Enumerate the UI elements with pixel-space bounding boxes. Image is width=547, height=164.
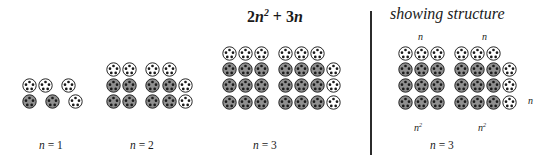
formula-label: 2n2 + 3n: [247, 8, 303, 25]
token-empty: [414, 46, 429, 61]
token-filled: [414, 62, 429, 77]
token-filled: [430, 95, 445, 110]
token-filled: [454, 78, 469, 93]
formula-coefficient-1: 2: [247, 8, 255, 25]
token-filled: [106, 94, 121, 109]
token-filled: [294, 62, 309, 77]
token-empty: [61, 78, 76, 93]
token-empty: [502, 62, 517, 77]
token-filled: [398, 78, 413, 93]
token-empty: [502, 95, 517, 110]
token-filled: [162, 78, 177, 93]
token-filled: [254, 78, 269, 93]
token-empty: [38, 78, 53, 93]
caption-n2: n = 2: [130, 140, 154, 152]
token-empty: [68, 94, 83, 109]
token-empty: [502, 78, 517, 93]
token-filled: [294, 95, 309, 110]
token-filled: [430, 78, 445, 93]
token-filled: [45, 94, 60, 109]
formula-variable: n: [294, 8, 303, 25]
quadratic-dot-figure: 2n2 + 3n showing structure: [0, 0, 547, 164]
token-filled: [122, 94, 137, 109]
token-filled: [470, 95, 485, 110]
token-filled: [122, 78, 137, 93]
token-filled: [145, 94, 160, 109]
token-empty: [122, 62, 137, 77]
token-filled: [222, 62, 237, 77]
token-filled: [454, 95, 469, 110]
formula-coefficient-2: 3: [286, 8, 294, 25]
token-empty: [310, 46, 325, 61]
panel-divider: [370, 11, 372, 155]
annotation-right-side-n: n: [528, 96, 533, 106]
token-filled: [145, 78, 160, 93]
token-filled: [310, 78, 325, 93]
token-filled: [398, 95, 413, 110]
token-filled: [430, 62, 445, 77]
caption-n3: n = 3: [253, 140, 277, 152]
token-filled: [278, 62, 293, 77]
token-filled: [278, 78, 293, 93]
token-filled: [22, 94, 37, 109]
caption-n1: n = 1: [39, 140, 63, 152]
annotation-bottom-right-n-squared: n2: [478, 122, 486, 133]
token-empty: [398, 46, 413, 61]
token-empty: [430, 46, 445, 61]
token-empty: [222, 46, 237, 61]
token-filled: [310, 62, 325, 77]
formula-variable-squared: n: [255, 8, 264, 25]
token-filled: [486, 95, 501, 110]
token-empty: [486, 46, 501, 61]
token-empty: [254, 46, 269, 61]
caption-n3-structure: n = 3: [430, 140, 454, 152]
token-filled: [414, 95, 429, 110]
token-empty: [162, 62, 177, 77]
token-filled: [106, 78, 121, 93]
token-empty: [145, 62, 160, 77]
token-empty: [278, 46, 293, 61]
formula-plus-sign: +: [269, 8, 286, 25]
token-empty: [454, 46, 469, 61]
token-filled: [162, 94, 177, 109]
token-filled: [254, 62, 269, 77]
token-empty: [178, 78, 193, 93]
token-filled: [254, 95, 269, 110]
token-filled: [238, 95, 253, 110]
token-filled: [222, 78, 237, 93]
panel-title: showing structure: [390, 6, 505, 22]
token-empty: [106, 62, 121, 77]
token-filled: [238, 62, 253, 77]
token-empty: [238, 46, 253, 61]
token-filled: [310, 95, 325, 110]
token-filled: [222, 95, 237, 110]
token-filled: [238, 78, 253, 93]
token-filled: [486, 62, 501, 77]
token-empty: [294, 46, 309, 61]
token-filled: [486, 78, 501, 93]
annotation-top-right-n: n: [482, 32, 487, 42]
token-filled: [470, 78, 485, 93]
token-filled: [294, 78, 309, 93]
token-filled: [278, 95, 293, 110]
token-filled: [454, 62, 469, 77]
token-empty: [326, 95, 341, 110]
token-filled: [470, 62, 485, 77]
token-empty: [178, 94, 193, 109]
token-empty: [326, 62, 341, 77]
token-empty: [326, 78, 341, 93]
annotation-bottom-left-n-squared: n2: [414, 122, 422, 133]
token-filled: [414, 78, 429, 93]
token-filled: [398, 62, 413, 77]
token-empty: [470, 46, 485, 61]
annotation-top-left-n: n: [418, 32, 423, 42]
token-empty: [22, 78, 37, 93]
